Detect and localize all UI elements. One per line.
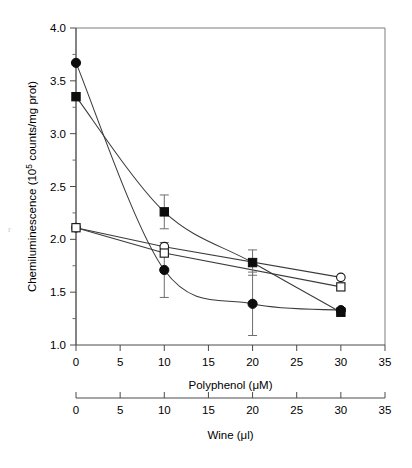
series-line-filled-square [76, 97, 341, 313]
secondary-x-tick-label: 35 [379, 404, 392, 416]
marker-filled-square [72, 92, 80, 100]
plot-frame [76, 28, 385, 345]
x-tick-label: 10 [158, 356, 171, 368]
y-axis: 1.01.52.02.53.03.54.0 [50, 22, 76, 351]
y-axis-title: Chemiluminescence (105 counts/mg prot) [24, 81, 38, 292]
x-axis-title: Polyphenol (μM) [189, 379, 273, 391]
x-tick-label: 25 [290, 356, 303, 368]
y-tick-label: 4.0 [50, 22, 66, 34]
data-series-group [71, 58, 345, 335]
plot-border [76, 28, 385, 345]
y-tick-label: 2.0 [50, 233, 66, 245]
y-tick-label: 1.0 [50, 339, 66, 351]
secondary-x-tick-label: 15 [202, 404, 215, 416]
y-tick-label: 1.5 [50, 286, 66, 298]
marker-open-square [160, 249, 168, 257]
figure-container: 1.01.52.02.53.03.54.0 05101520253035 051… [0, 0, 412, 468]
chemiluminescence-line-chart: 1.01.52.02.53.03.54.0 05101520253035 051… [0, 0, 412, 468]
marker-filled-circle [71, 58, 80, 67]
secondary-x-tick-label: 25 [290, 404, 303, 416]
marker-filled-circle [160, 265, 169, 274]
x-tick-label: 20 [246, 356, 259, 368]
x-tick-label: 35 [379, 356, 392, 368]
secondary-x-tick-label: 10 [158, 404, 171, 416]
secondary-x-tick-label: 0 [73, 404, 79, 416]
series-line-filled-circle [76, 63, 341, 310]
marker-open-square [72, 224, 80, 232]
secondary-x-tick-label: 30 [334, 404, 347, 416]
x-tick-label: 0 [73, 356, 79, 368]
marker-filled-circle [248, 299, 257, 308]
marker-filled-square [337, 308, 345, 316]
x-tick-label: 5 [117, 356, 123, 368]
y-tick-label: 2.5 [50, 181, 66, 193]
secondary-x-tick-label: 5 [117, 404, 123, 416]
y-tick-label: 3.0 [50, 128, 66, 140]
x-axis-polyphenol: 05101520253035 [73, 345, 392, 368]
secondary-x-tick-label: 20 [246, 404, 259, 416]
marker-open-square [337, 283, 345, 291]
marker-filled-square [248, 258, 256, 266]
secondary-x-axis-title: Wine (μl) [207, 429, 253, 441]
x-tick-label: 30 [334, 356, 347, 368]
marker-open-circle [337, 273, 346, 282]
series-line-open-circle [76, 228, 341, 278]
marker-filled-square [160, 208, 168, 216]
scan-artifact: r [8, 224, 11, 234]
x-tick-label: 15 [202, 356, 215, 368]
x-axis-wine: 05101520253035 [73, 392, 392, 416]
y-tick-label: 3.5 [50, 75, 66, 87]
